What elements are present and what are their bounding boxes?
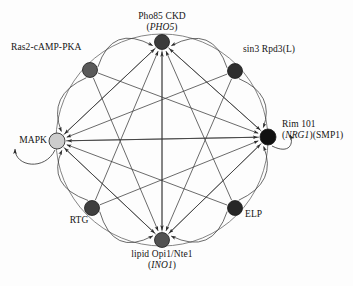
gene-pho5: PHO5 bbox=[150, 22, 175, 32]
edge-ras2-to-rim101 bbox=[98, 73, 258, 133]
node-label-elp: ELP bbox=[245, 209, 279, 220]
node-label-ras2: Ras2-cAMP-PKA bbox=[11, 42, 106, 53]
node-label-lipid: lipid Opi1/Nte1 (INO1) bbox=[107, 249, 217, 271]
node-label-mapk-line1: MAPK bbox=[3, 135, 47, 146]
node-pho85[interactable] bbox=[155, 35, 170, 50]
network-diagram: Pho85 CKD (PHO5) Ras2-cAMP-PKA sin3 Rpd3… bbox=[0, 0, 353, 286]
node-label-mapk: MAPK bbox=[3, 135, 47, 146]
edge-pho85-to-rim101 bbox=[168, 48, 260, 130]
edge-sin3-to-lipid bbox=[166, 79, 232, 231]
node-rim101[interactable] bbox=[260, 129, 276, 145]
node-label-sin3: sin3 Rpd3(L) bbox=[243, 44, 333, 55]
node-rtg[interactable] bbox=[85, 201, 100, 216]
node-elp[interactable] bbox=[228, 201, 243, 216]
node-label-pho85-line2: (PHO5) bbox=[112, 22, 212, 33]
node-label-ras2-line1: Ras2-cAMP-PKA bbox=[11, 42, 106, 53]
edge-sin3-to-pho85 bbox=[171, 38, 227, 68]
self-loop-mapk bbox=[15, 149, 55, 164]
node-label-elp-line1: ELP bbox=[245, 209, 279, 220]
edge-elp-to-lipid bbox=[171, 211, 227, 242]
edge-rtg-to-pho85 bbox=[95, 51, 158, 200]
node-label-sin3-line1: sin3 Rpd3(L) bbox=[243, 44, 333, 55]
edge-rtg-to-rim101 bbox=[100, 141, 258, 205]
rim101-suffix: )(SMP1) bbox=[309, 130, 343, 140]
edge-sin3-to-mapk bbox=[67, 74, 227, 137]
node-label-rtg: RTG bbox=[62, 215, 96, 226]
node-label-rim101-line2: (NRG1)(SMP1) bbox=[282, 130, 352, 141]
node-label-lipid-line1: lipid Opi1/Nte1 bbox=[107, 249, 217, 260]
node-label-rim101-line1: Rim 101 bbox=[282, 119, 352, 130]
node-lipid[interactable] bbox=[155, 233, 170, 248]
node-label-pho85-line1: Pho85 CKD bbox=[112, 11, 212, 22]
edge-rtg-to-lipid bbox=[100, 212, 153, 243]
edge-ras2-to-lipid bbox=[93, 78, 158, 231]
edge-sin3-to-rim101 bbox=[239, 79, 267, 128]
node-sin3[interactable] bbox=[228, 64, 243, 79]
edge-elp-to-rim101 bbox=[239, 147, 268, 201]
edge-elp-to-mapk bbox=[67, 145, 227, 205]
edge-elp-to-pho85 bbox=[166, 51, 232, 200]
edge-pho85-to-mapk bbox=[65, 48, 156, 134]
node-ras2[interactable] bbox=[83, 63, 98, 78]
node-mapk[interactable] bbox=[49, 133, 65, 149]
node-label-lipid-line2: (INO1) bbox=[107, 260, 217, 271]
gene-nrg1: NRG1 bbox=[285, 130, 309, 140]
node-label-rim101: Rim 101 (NRG1)(SMP1) bbox=[282, 119, 352, 141]
node-label-pho85: Pho85 CKD (PHO5) bbox=[112, 11, 212, 33]
gene-ino1: INO1 bbox=[151, 260, 173, 270]
node-label-rtg-line1: RTG bbox=[62, 215, 96, 226]
edge-ras2-to-pho85 bbox=[98, 38, 153, 67]
